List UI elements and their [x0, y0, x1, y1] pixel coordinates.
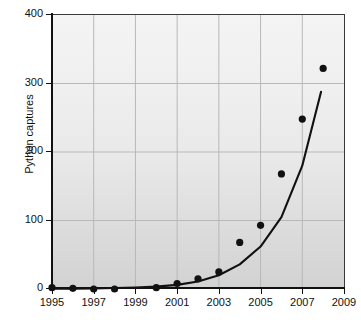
x-tick-mark: [344, 289, 345, 294]
y-tick: 400: [0, 14, 52, 15]
data-point: [257, 222, 264, 229]
chart-figure: Python captures 0100200300400 1995199719…: [0, 0, 361, 320]
y-tick-label: 300: [0, 76, 43, 88]
data-point: [278, 170, 285, 177]
plot-canvas: [52, 15, 344, 289]
x-tick-label: 2003: [199, 296, 239, 308]
x-tick-label: 1999: [115, 296, 155, 308]
y-tick: 300: [0, 83, 52, 84]
data-point: [236, 239, 243, 246]
y-tick: 0: [0, 288, 52, 289]
plot-area: [52, 14, 345, 289]
horizontal-gridlines: [52, 84, 344, 221]
data-point: [194, 275, 201, 282]
x-tick-label: 1997: [74, 296, 114, 308]
y-tick-mark: [46, 288, 51, 289]
x-tick-mark: [135, 289, 136, 294]
x-tick-mark: [219, 289, 220, 294]
x-tick-label: 2001: [157, 296, 197, 308]
data-point: [215, 268, 222, 275]
x-tick-label: 2009: [324, 296, 361, 308]
x-tick-label: 2007: [282, 296, 322, 308]
x-axis-line: [51, 287, 345, 289]
y-tick-mark: [46, 14, 51, 15]
x-tick-mark: [302, 289, 303, 294]
y-tick-label: 200: [0, 144, 43, 156]
y-tick: 200: [0, 151, 52, 152]
x-tick-mark: [52, 289, 53, 294]
x-tick-mark: [177, 289, 178, 294]
x-tick-label: 2005: [241, 296, 281, 308]
y-tick-label: 400: [0, 7, 43, 19]
y-tick-mark: [46, 83, 51, 84]
x-tick-label: 1995: [32, 296, 72, 308]
y-tick: 100: [0, 220, 52, 221]
y-tick-mark: [46, 151, 51, 152]
y-tick-label: 100: [0, 213, 43, 225]
x-tick-mark: [261, 289, 262, 294]
y-tick-label: 0: [0, 281, 43, 293]
data-point: [320, 65, 327, 72]
x-tick-mark: [94, 289, 95, 294]
data-point-group: [48, 65, 326, 293]
exponential-fit-curve: [52, 92, 321, 289]
y-tick-mark: [46, 220, 51, 221]
data-point: [299, 116, 306, 123]
